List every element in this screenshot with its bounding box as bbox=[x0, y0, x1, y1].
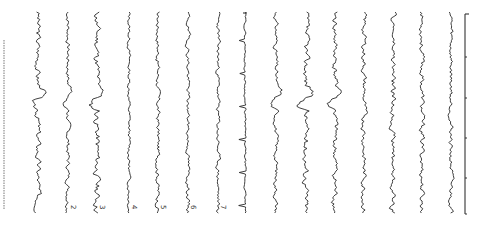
channel-trace-6 bbox=[185, 12, 190, 213]
channel-trace-7 bbox=[216, 12, 221, 213]
trace-group bbox=[32, 12, 454, 213]
side-caption-text bbox=[0, 40, 8, 210]
channel-label: 2 bbox=[69, 205, 77, 209]
channel-trace-5 bbox=[155, 12, 160, 213]
channel-label: 4 bbox=[130, 205, 138, 210]
channel-label: 6 bbox=[189, 205, 197, 210]
channel-trace-2 bbox=[63, 12, 72, 213]
channel-trace-13 bbox=[389, 12, 396, 213]
channel-label: 3 bbox=[98, 205, 106, 209]
channel-trace-10 bbox=[297, 12, 313, 213]
eeg-figure: 234567 bbox=[0, 0, 486, 239]
channel-trace-8 bbox=[239, 12, 247, 213]
time-axis bbox=[465, 14, 469, 214]
channel-trace-15 bbox=[448, 12, 454, 213]
channel-labels: 234567 bbox=[69, 205, 227, 210]
channel-trace-1 bbox=[32, 12, 46, 213]
channel-trace-14 bbox=[419, 12, 425, 213]
channel-trace-4 bbox=[127, 12, 131, 213]
channel-trace-3 bbox=[89, 12, 103, 213]
channel-trace-9 bbox=[271, 12, 282, 213]
channel-trace-11 bbox=[327, 12, 341, 213]
channel-trace-12 bbox=[361, 12, 368, 213]
channel-label: 5 bbox=[159, 205, 167, 209]
channel-label: 7 bbox=[219, 205, 227, 209]
